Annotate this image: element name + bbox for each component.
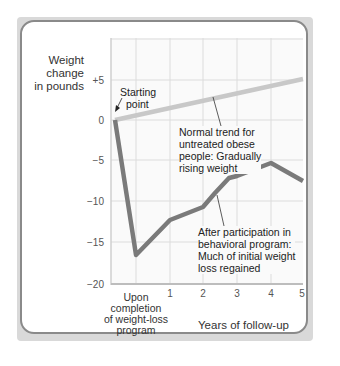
svg-text:−5: −5 (93, 155, 105, 166)
svg-text:2: 2 (200, 288, 206, 299)
svg-text:−10: −10 (87, 196, 104, 207)
svg-text:−15: −15 (87, 237, 104, 248)
svg-text:−20: −20 (87, 279, 104, 290)
svg-text:0: 0 (98, 115, 104, 126)
x-axis-label: Years of follow-up (198, 319, 289, 331)
annotation-behavioral: After participation in behavioral progra… (198, 226, 295, 274)
svg-text:3: 3 (234, 288, 240, 299)
x-label-upon-completion: Upon completion of weight-loss program (100, 292, 172, 336)
svg-text:+5: +5 (93, 75, 105, 86)
annotation-normal-trend: Normal trend for untreated obese people:… (179, 126, 261, 174)
x-ticks: 1 2 3 4 5 (167, 288, 305, 299)
annotation-starting-point: Starting point (120, 86, 156, 110)
svg-text:5: 5 (299, 288, 305, 299)
y-ticks: +5 0 −5 −10 −15 −20 (87, 75, 104, 290)
svg-text:4: 4 (268, 288, 274, 299)
